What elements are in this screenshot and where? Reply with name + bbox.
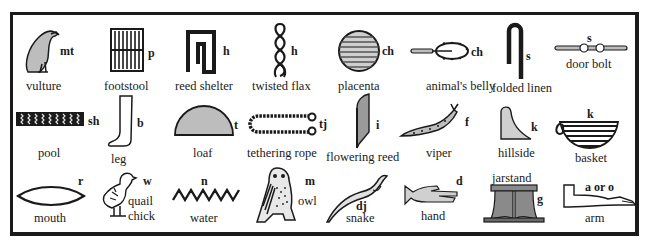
glyph-label: owl (298, 194, 317, 209)
reed-shelter-icon (186, 30, 216, 72)
glyph-label: loaf (193, 146, 212, 161)
sound-value: tj (319, 117, 327, 132)
glyph-label: hand (421, 209, 445, 224)
sound-value: ch (471, 45, 483, 60)
sound-value: w (143, 174, 152, 189)
sound-value: b (137, 116, 144, 131)
glyph-label: footstool (104, 79, 148, 94)
sound-value: h (291, 44, 298, 59)
glyph-label: animal's belly (426, 79, 495, 94)
glyph-label: jarstand (492, 171, 532, 186)
hillside-icon (500, 106, 532, 140)
sound-value: i (376, 118, 379, 133)
pool-icon (16, 112, 84, 126)
glyph-label: tethering rope (247, 146, 317, 161)
leg-icon (106, 94, 136, 148)
vulture-icon (22, 28, 62, 76)
glyph-label: mouth (34, 211, 66, 226)
tethering-rope-icon (248, 112, 318, 136)
glyph-label: reed shelter (175, 79, 233, 94)
glyph-label: leg (111, 152, 126, 167)
glyph-label: pool (38, 146, 60, 161)
water-icon (172, 188, 242, 202)
sound-value: h (223, 44, 230, 59)
sound-value: m (305, 174, 315, 189)
sound-value: s (526, 49, 531, 64)
glyph-label-line2: chick (128, 209, 155, 224)
animals-belly-icon (410, 40, 470, 62)
glyph-label: door bolt (566, 57, 611, 72)
hand-icon (403, 182, 459, 208)
basket-icon (554, 120, 620, 150)
sound-value: t (234, 118, 238, 133)
jarstand-icon (483, 185, 545, 223)
arm-icon (562, 183, 638, 209)
glyph-label-line1: quail (128, 194, 153, 209)
sound-value: k (587, 107, 594, 122)
glyph-label: snake (346, 211, 374, 226)
sound-value: n (201, 174, 208, 189)
glyph-label: folded linen (492, 81, 552, 96)
sound-value: f (465, 115, 469, 130)
glyph-label: flowering reed (326, 150, 399, 165)
sound-value: g (537, 192, 543, 207)
sound-value: mt (60, 44, 74, 59)
mouth-icon (16, 186, 86, 206)
folded-linen-icon (506, 22, 524, 80)
glyph-label: viper (426, 146, 452, 161)
glyph-label: basket (575, 151, 607, 166)
loaf-icon (174, 104, 234, 136)
glyph-label: water (190, 211, 218, 226)
glyph-label: twisted flax (252, 79, 311, 94)
sound-value: d (456, 174, 463, 189)
placenta-icon (337, 29, 381, 73)
sound-value: k (531, 120, 538, 135)
sound-value: sh (88, 114, 99, 129)
owl-icon (255, 166, 301, 224)
flowering-reed-icon (353, 92, 373, 150)
sound-value: p (148, 46, 155, 61)
sound-value: ch (382, 44, 394, 59)
footstool-icon (110, 28, 144, 72)
glyph-label: arm (585, 211, 604, 226)
glyph-label: vulture (26, 79, 61, 94)
sound-value: r (78, 174, 83, 189)
twisted-flax-icon (272, 22, 288, 78)
glyph-label: hillside (498, 146, 535, 161)
viper-icon (400, 104, 464, 140)
sound-value: s (587, 31, 592, 46)
